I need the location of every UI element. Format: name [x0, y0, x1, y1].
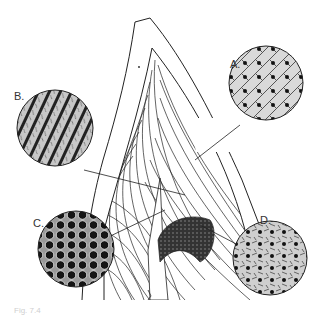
inset-a-label: A. — [230, 58, 240, 70]
inset-b-circle — [17, 90, 93, 166]
inset-c-circle — [38, 211, 114, 287]
inset-b-label: B. — [14, 90, 24, 102]
tooth-section-diagram — [0, 0, 311, 300]
small-mark — [138, 66, 140, 68]
figure-caption: Fig. 7.4 — [14, 306, 304, 316]
inset-d-circle — [233, 221, 307, 295]
inset-d-label: D. — [260, 214, 271, 226]
dark-band-region — [158, 217, 214, 262]
inset-c-label: C. — [33, 217, 44, 229]
upper-gap — [190, 118, 246, 152]
